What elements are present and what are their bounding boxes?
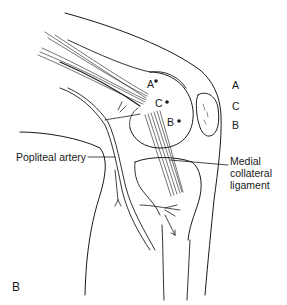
popliteal-artery-b: [68, 88, 155, 250]
label-mcl-line1: Medial: [230, 155, 261, 167]
label-point-b: B: [167, 116, 174, 128]
point-b-dot: [177, 119, 181, 123]
anterior-tibial-branch: [165, 215, 175, 235]
sural-branch: [115, 170, 121, 206]
tibia-plateau: [135, 158, 201, 241]
tibia-shaft-right: [187, 240, 190, 300]
point-c-dot: [165, 100, 169, 104]
tibia-shaft-left: [162, 225, 164, 300]
label-side-c: C: [232, 100, 240, 112]
label-point-c: C: [155, 97, 163, 109]
knee-anatomy-figure: A C B A C B Popliteal artery Medial coll…: [0, 0, 287, 305]
thigh-outline: [65, 13, 221, 295]
label-side-b: B: [232, 119, 239, 131]
panel-label: B: [12, 281, 20, 293]
point-a-dot: [154, 79, 158, 83]
femur-upper-contour: [68, 40, 150, 72]
label-popliteal-artery: Popliteal artery: [16, 151, 86, 163]
tibia-medial: [135, 162, 160, 215]
hamstring-tendons: [38, 32, 148, 106]
label-mcl-line3: ligament: [230, 179, 270, 191]
label-point-a: A: [147, 78, 154, 90]
condyle-inner: [129, 108, 138, 128]
mcl-fibers: [145, 111, 183, 196]
label-mcl-line2: collateral: [230, 167, 272, 179]
label-side-a: A: [232, 79, 239, 91]
